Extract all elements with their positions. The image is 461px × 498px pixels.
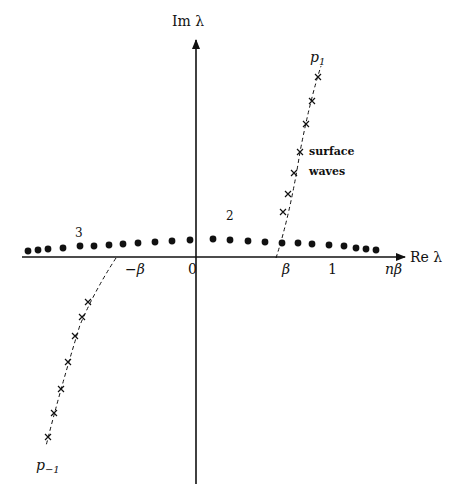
tick-label: 0 (188, 261, 197, 277)
eigenvalue-dot (152, 239, 159, 246)
eigenvalue-dot (227, 237, 234, 244)
eigenvalue-dot (187, 237, 194, 244)
surface-waves-label-line1: surface (309, 145, 355, 158)
tick-label: nβ (385, 261, 402, 277)
pole-cross-icon (285, 191, 291, 197)
axis-tick-labels: −β0β1nβ (125, 261, 402, 277)
eigenvalue-dot (35, 247, 42, 254)
pole-cross-icon (85, 299, 91, 305)
eigenvalue-dot (341, 243, 348, 250)
eigenvalue-dot (363, 246, 370, 253)
tick-label: −β (125, 261, 145, 277)
x-axis-label: Re λ (410, 249, 442, 265)
eigenvalue-dot (77, 243, 84, 250)
pole-cross-icon (58, 386, 64, 392)
p-minus1-label: p−1 (36, 457, 60, 475)
pole-cross-icon (79, 314, 85, 320)
eigenvalue-dot (25, 248, 32, 255)
eigenvalue-dot (326, 242, 333, 249)
pole-cross-icon (315, 74, 321, 80)
eigenvalue-dot (169, 238, 176, 245)
eigenvalue-dot (120, 241, 127, 248)
region-labels: 23 (75, 209, 234, 240)
eigenvalue-dot (106, 242, 113, 249)
pole-cross-icon (280, 209, 286, 215)
eigenvalue-dot (295, 240, 302, 247)
eigenvalue-dot (135, 240, 142, 247)
eigenvalue-dot (91, 243, 98, 250)
y-axis-label: Im λ (172, 13, 204, 29)
eigenvalue-dot (60, 245, 67, 252)
lower-branch-curve (46, 258, 116, 446)
pole-cross-icon (65, 359, 71, 365)
region-label: 3 (75, 226, 83, 240)
eigenvalue-dot (279, 240, 286, 247)
pole-cross-icon (45, 434, 51, 440)
eigenvalue-dot (309, 241, 316, 248)
eigenvalue-dot (373, 247, 380, 254)
eigenvalue-dot (210, 236, 217, 243)
region-label: 2 (226, 209, 234, 223)
eigenvalue-dot (353, 245, 360, 252)
eigenvalue-dot (245, 238, 252, 245)
pole-cross-icon (303, 121, 309, 127)
tick-label: β (281, 261, 290, 277)
upper-branch-curve (276, 66, 321, 258)
eigenvalue-dot (45, 246, 52, 253)
surface-waves-label-line2: waves (308, 165, 345, 178)
complex-plane-diagram: Im λ Re λ −β0β1nβ 23 p1 p−1 surface wave… (0, 0, 461, 498)
eigenvalue-dot (262, 239, 269, 246)
p1-label: p1 (310, 49, 325, 67)
tick-label: 1 (328, 261, 337, 277)
